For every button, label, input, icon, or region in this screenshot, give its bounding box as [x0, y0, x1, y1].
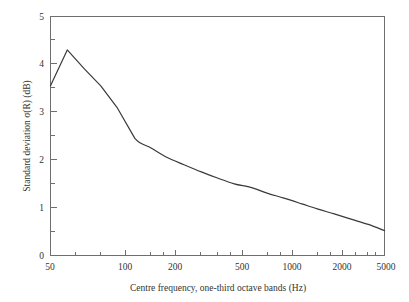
x-tick-label-200: 200	[168, 262, 183, 272]
y-axis-title: Standard deviation σ(R) (dB)	[22, 80, 33, 191]
y-tick-label-0: 0	[39, 251, 44, 261]
x-axis-title: Centre frequency, one-third octave bands…	[130, 283, 306, 294]
y-tick-label-4: 4	[39, 59, 44, 69]
chart-svg: 0 1 2 3 4 5	[0, 0, 409, 302]
y-tick-label-3: 3	[39, 107, 44, 117]
y-tick-label-1: 1	[39, 203, 44, 213]
y-tick-label-2: 2	[39, 155, 44, 165]
plot-frame	[51, 17, 385, 256]
data-curve-standard-deviation	[51, 50, 385, 231]
x-tick-label-2000: 2000	[333, 262, 352, 272]
chart-figure: 0 1 2 3 4 5	[0, 0, 409, 302]
y-axis-tick-labels: 0 1 2 3 4 5	[39, 12, 44, 261]
x-tick-label-5000: 5000	[377, 262, 396, 272]
x-tick-label-500: 500	[235, 262, 250, 272]
x-tick-label-100: 100	[118, 262, 133, 272]
x-tick-label-1000: 1000	[283, 262, 302, 272]
x-tick-label-50: 50	[45, 262, 55, 272]
y-axis-minor-ticks	[51, 40, 55, 232]
x-axis-minor-ticks	[76, 252, 376, 256]
y-tick-label-5: 5	[39, 12, 44, 22]
x-axis-tick-labels: 50 100 200 500 1000 2000 5000	[45, 262, 396, 272]
